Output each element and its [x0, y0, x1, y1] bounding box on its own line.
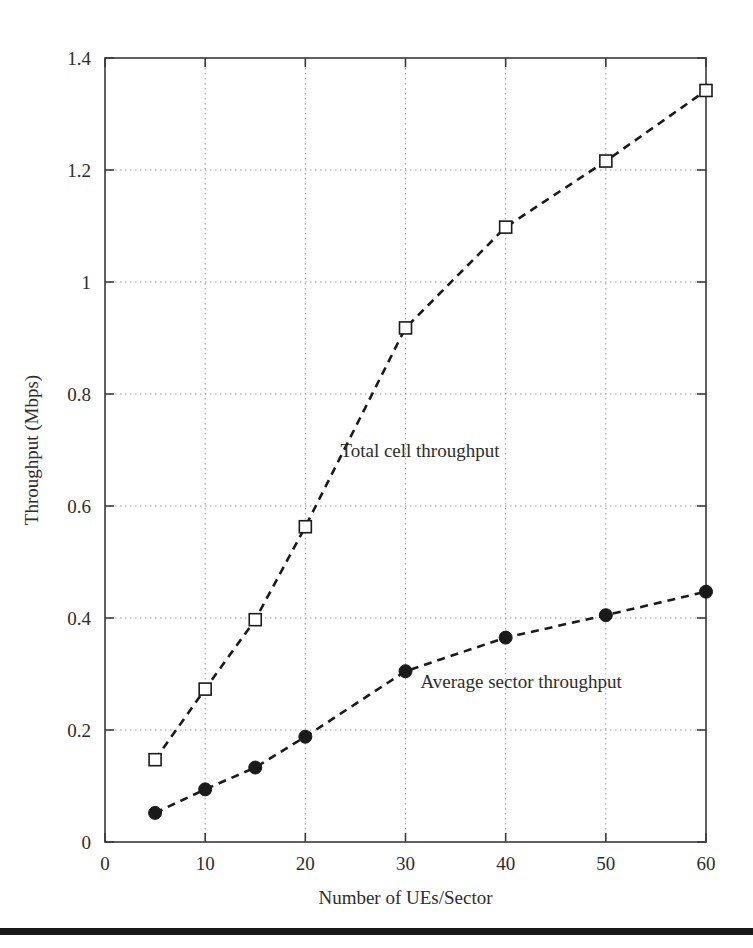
data-point-square [700, 84, 712, 96]
data-point-square [299, 521, 311, 533]
xtick-label: 20 [296, 853, 315, 874]
ytick-label: 1 [82, 272, 92, 293]
xtick-label: 50 [596, 853, 615, 874]
data-point-square [400, 322, 412, 334]
data-point-circle [149, 806, 162, 819]
y-axis-title: Throughput (Mbps) [21, 375, 43, 525]
series-annotation-label: Total cell throughput [340, 440, 500, 461]
data-point-circle [199, 783, 212, 796]
ytick-label: 0.4 [67, 608, 91, 629]
ytick-label: 0.6 [67, 496, 91, 517]
ytick-label: 1.2 [67, 160, 91, 181]
xtick-label: 10 [196, 853, 215, 874]
ytick-label: 1.4 [67, 48, 91, 69]
series-annotation-label: Average sector throughput [421, 671, 623, 692]
data-point-square [199, 683, 211, 695]
ytick-label: 0 [82, 832, 92, 853]
throughput-line-chart: 00.20.40.60.811.21.40102030405060Number … [0, 0, 753, 948]
xtick-label: 40 [496, 853, 515, 874]
data-point-circle [700, 585, 713, 598]
data-point-circle [599, 609, 612, 622]
figure-container: 00.20.40.60.811.21.40102030405060Number … [0, 0, 753, 948]
data-point-circle [299, 730, 312, 743]
data-point-square [600, 155, 612, 167]
ytick-label: 0.8 [67, 384, 91, 405]
figure-background [0, 0, 753, 948]
x-axis-title: Number of UEs/Sector [318, 887, 493, 908]
xtick-label: 30 [396, 853, 415, 874]
xtick-label: 60 [697, 853, 716, 874]
data-point-square [149, 754, 161, 766]
data-point-circle [249, 761, 262, 774]
data-point-circle [399, 665, 412, 678]
data-point-square [500, 221, 512, 233]
footer-rule [0, 928, 753, 935]
ytick-label: 0.2 [67, 720, 91, 741]
data-point-circle [499, 631, 512, 644]
xtick-label: 0 [100, 853, 110, 874]
data-point-square [249, 614, 261, 626]
